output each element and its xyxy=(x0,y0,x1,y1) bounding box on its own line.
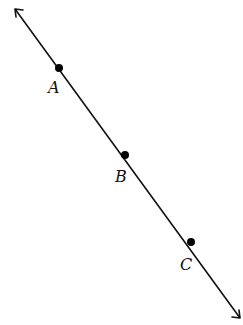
point-a: A xyxy=(46,64,63,97)
point-c: C xyxy=(180,238,195,274)
point-c-dot xyxy=(187,238,195,246)
point-b-dot xyxy=(121,151,129,159)
point-c-label: C xyxy=(180,255,192,274)
line-diagram: A B C xyxy=(0,0,243,325)
point-a-dot xyxy=(55,64,63,72)
point-a-label: A xyxy=(46,78,60,97)
line-abc xyxy=(15,9,240,318)
point-b-label: B xyxy=(114,167,127,186)
point-b: B xyxy=(114,151,129,186)
